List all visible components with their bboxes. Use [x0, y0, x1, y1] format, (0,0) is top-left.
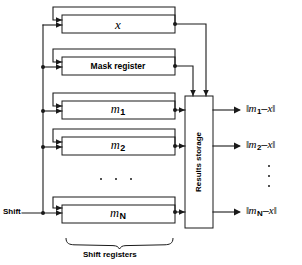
arrow-mN-into-storage: [179, 209, 185, 215]
shift-arrow-mask: [56, 64, 62, 70]
register-label-x: x: [115, 18, 121, 31]
register-label-mN: mN: [110, 207, 126, 221]
shift-arrow-m1: [56, 108, 62, 114]
junction-shift-mask: [41, 65, 45, 69]
feedback-arrow-m1: [56, 103, 62, 109]
junction-shift-mN: [41, 211, 45, 215]
arrow-output-N: [234, 209, 241, 216]
register-label-m1-base: m: [111, 102, 120, 116]
junction-shift-m1: [41, 109, 45, 113]
registers-ellipsis: [100, 178, 132, 180]
output-N-close-norm: ‖: [274, 204, 277, 216]
arrow-m2-into-storage: [179, 143, 185, 149]
register-label-m1-subscript: 1: [120, 107, 125, 117]
arrow-m1-into-storage: [179, 107, 185, 113]
ellipsis-dot: [268, 165, 270, 167]
output-label-N: ‖mN–x‖: [246, 205, 276, 218]
arrow-output-2: [234, 143, 241, 150]
junction-mN-output: [173, 210, 177, 214]
wire-x-to-storage: [175, 24, 206, 96]
shift-arrow-mN: [56, 210, 62, 216]
output-1-close-norm: ‖: [272, 102, 275, 114]
output-2-base: m: [249, 138, 257, 150]
shift-arrow-x: [56, 22, 62, 28]
arrow-mask-into-storage: [190, 90, 196, 96]
junction-m1-output: [173, 108, 177, 112]
feedback-arrow-mN: [56, 205, 62, 211]
output-1-base: m: [249, 102, 257, 114]
arrow-output-1: [234, 107, 241, 114]
register-label-mN-subscript: N: [119, 211, 126, 221]
feedback-arrow-mask: [56, 59, 62, 65]
outputs-ellipsis: [268, 165, 270, 187]
shift-registers-group-label: Shift registers: [83, 251, 137, 259]
feedback-arrow-m2: [56, 139, 62, 145]
junction-x-output: [173, 22, 177, 26]
register-label-m2: m2: [111, 139, 125, 153]
ellipsis-dot: [115, 178, 117, 180]
results-storage-label: Results storage: [195, 132, 203, 192]
register-label-m1: m1: [111, 103, 125, 117]
diagram-vector-layer: [0, 0, 302, 265]
figure-canvas: x Mask register m1 m2 mN Results storage…: [0, 0, 302, 265]
shift-input-label: Shift: [3, 208, 21, 216]
ellipsis-dot: [100, 178, 102, 180]
register-label-mN-base: m: [110, 206, 119, 220]
arrow-x-into-storage: [203, 90, 209, 96]
ellipsis-dot: [130, 178, 132, 180]
shift-registers-brace: [66, 238, 173, 249]
junction-mask-output: [173, 64, 177, 68]
feedback-arrow-x: [56, 17, 62, 23]
wire-mask-to-storage: [175, 66, 193, 96]
ellipsis-dot: [268, 185, 270, 187]
output-label-2: ‖m2–x‖: [246, 139, 275, 152]
output-2-close-norm: ‖: [272, 138, 275, 150]
junction-m2-output: [173, 144, 177, 148]
output-label-1: ‖m1–x‖: [246, 103, 275, 116]
shift-arrow-m2: [56, 144, 62, 150]
register-label-m2-subscript: 2: [120, 143, 125, 153]
register-label-m2-base: m: [111, 138, 120, 152]
register-label-mask: Mask register: [91, 62, 146, 71]
ellipsis-dot: [268, 175, 270, 177]
output-N-base: m: [249, 204, 257, 216]
junction-shift-m2: [41, 145, 45, 149]
